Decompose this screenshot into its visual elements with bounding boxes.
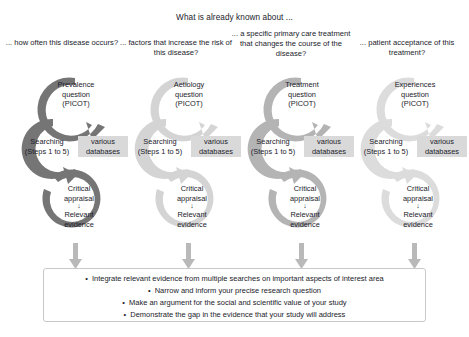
summary-bullet: Narrow and inform your precise research … — [44, 285, 425, 297]
node-appraisal-treatment: Critical appraisal ↓ Relevant evidence — [266, 184, 344, 229]
summary-bullet: Make an argument for the social and scie… — [44, 297, 425, 309]
downward-arrow-icon: ↓ — [40, 203, 118, 210]
column-heading-prevalence: ... how often this disease occurs? — [4, 38, 120, 48]
node-question-treatment: Treatment question (PICOT) — [258, 80, 346, 109]
summary-list: Integrate relevant evidence from multipl… — [44, 273, 425, 322]
node-question-aetiology: Aetiology question (PICOT) — [145, 80, 233, 109]
node-appraisal-aetiology: Critical appraisal ↓ Relevant evidence — [153, 184, 231, 229]
column-prevalence: Prevalence question (PICOT) Searching (S… — [6, 72, 123, 257]
summary-bullet: Integrate relevant evidence from multipl… — [44, 273, 425, 285]
summary-box: Integrate relevant evidence from multipl… — [43, 268, 426, 322]
summary-bullet: Demonstrate the gap in the evidence that… — [44, 309, 425, 321]
connector-arrow-experiences — [408, 243, 421, 269]
column-heading-treatment: ... a specific primary care treatment th… — [231, 29, 351, 59]
connector-arrow-treatment — [295, 243, 308, 269]
downward-arrow-icon: ↓ — [266, 203, 344, 210]
diagram-canvas: What is already known about ... ... how … — [0, 0, 469, 337]
column-treatment: Treatment question (PICOT) Searching (St… — [232, 72, 349, 257]
column-experiences: Experiences question (PICOT) Searching (… — [345, 72, 462, 257]
page-title: What is already known about ... — [0, 13, 469, 22]
downward-arrow-icon: ↓ — [379, 203, 457, 210]
column-heading-experiences: ... patient acceptance of this treatment… — [348, 38, 466, 58]
column-heading-aetiology: ... factors that increase the risk of th… — [118, 38, 234, 58]
node-question-experiences: Experiences question (PICOT) — [371, 80, 459, 109]
node-appraisal-prevalence: Critical appraisal ↓ Relevant evidence — [40, 184, 118, 229]
node-databases-experiences: various databases — [417, 136, 467, 157]
connector-arrow-aetiology — [182, 243, 195, 269]
column-aetiology: Aetiology question (PICOT) Searching (St… — [119, 72, 236, 257]
node-question-prevalence: Prevalence question (PICOT) — [32, 80, 120, 109]
downward-arrow-icon: ↓ — [153, 203, 231, 210]
connector-arrow-prevalence — [69, 243, 82, 269]
node-appraisal-experiences: Critical appraisal ↓ Relevant evidence — [379, 184, 457, 229]
